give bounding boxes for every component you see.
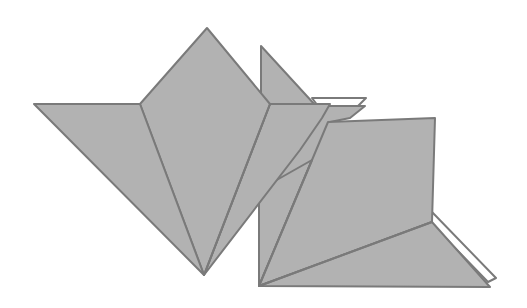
left-flower-center-diamond <box>140 28 270 275</box>
origami-diagram <box>0 0 527 308</box>
origami-figure <box>0 0 527 308</box>
rear-flap-top <box>261 46 316 106</box>
